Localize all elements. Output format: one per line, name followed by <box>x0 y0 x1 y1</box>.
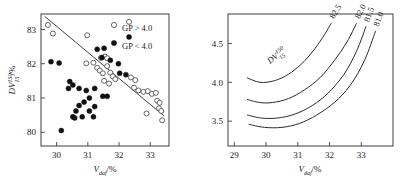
curve-plot-svg: 2930313233 3.54.04.5 82.582.081.581.0 DV… <box>208 0 416 192</box>
data-point <box>102 46 107 51</box>
data-point <box>92 86 97 91</box>
data-point <box>99 55 104 60</box>
x-tick-label: 32 <box>325 150 334 160</box>
data-point <box>59 128 64 133</box>
scatter-panel: 30313233 80818283 GP > 4.0 GP < 4.0 Vdaf… <box>0 0 208 192</box>
x-tick-label: 30 <box>52 150 62 160</box>
x-tick-label: 30 <box>262 150 272 160</box>
data-point <box>70 82 75 87</box>
data-point <box>45 22 50 27</box>
y-axis-unit: /% <box>7 65 17 76</box>
data-point <box>82 100 87 105</box>
legend-label-gp-high: GP > 4.0 <box>122 23 152 33</box>
figure-root: 30313233 80818283 GP > 4.0 GP < 4.0 Vdaf… <box>0 0 416 192</box>
x-axis-title: Vdaf/% <box>93 164 117 176</box>
x-tick-label: 33 <box>357 150 367 160</box>
x-tick-label: 32 <box>115 150 124 160</box>
y-axis-ticks: 80818283 <box>27 25 45 138</box>
data-point <box>91 60 96 65</box>
data-point <box>144 111 149 116</box>
data-point <box>87 96 92 101</box>
data-point <box>153 90 158 95</box>
data-point <box>77 103 82 108</box>
data-point <box>157 100 162 105</box>
data-point <box>105 64 110 69</box>
data-curve <box>247 23 331 82</box>
data-points-gp-high <box>45 19 164 122</box>
data-point <box>123 72 128 77</box>
y-axis-subscript: 15 <box>14 77 20 83</box>
x-axis-ticks: 2930313233 <box>230 142 366 160</box>
y-axis-ticks: 3.54.04.5 <box>212 39 232 127</box>
y-tick-label: 4.5 <box>212 39 224 49</box>
legend-marker-filled-circle <box>111 40 116 45</box>
x-tick-label: 33 <box>146 150 156 160</box>
data-curve <box>249 31 376 128</box>
data-point <box>92 104 97 109</box>
data-point <box>136 88 141 93</box>
x-axis-unit: /% <box>107 164 118 174</box>
y-tick-label: 4.0 <box>212 78 224 88</box>
curve-label: 82.5 <box>327 2 343 20</box>
data-point <box>91 114 96 119</box>
x-tick-label: 31 <box>83 150 92 160</box>
curve-series-group <box>247 23 376 127</box>
data-point <box>77 86 82 91</box>
x-tick-label: 31 <box>293 150 302 160</box>
legend-label-gp-low: GP < 4.0 <box>122 41 152 51</box>
legend: GP > 4.0 GP < 4.0 <box>111 22 152 51</box>
data-point <box>66 86 71 91</box>
data-points-gp-low <box>48 34 131 133</box>
data-point <box>160 118 165 123</box>
y-tick-label: 82 <box>27 59 36 69</box>
data-point <box>73 109 78 114</box>
data-point <box>48 59 53 64</box>
data-point <box>57 61 62 66</box>
data-point <box>84 61 89 66</box>
curve-annotation-dv: DV15015 <box>264 45 289 68</box>
scatter-plot-svg: 30313233 80818283 GP > 4.0 GP < 4.0 Vdaf… <box>0 0 208 192</box>
x-axis-ticks: 30313233 <box>52 142 155 160</box>
data-point <box>84 88 89 93</box>
legend-marker-open-circle <box>111 22 116 27</box>
data-point <box>95 47 100 52</box>
data-point <box>87 109 92 114</box>
data-point <box>72 115 77 120</box>
y-axis-title: DV15015/% <box>7 65 20 96</box>
data-point <box>80 114 85 119</box>
data-point <box>105 94 110 99</box>
y-tick-label: 81 <box>27 93 36 103</box>
data-point <box>100 71 105 76</box>
y-tick-label: 83 <box>27 25 37 35</box>
data-point <box>102 78 107 83</box>
y-tick-label: 3.5 <box>212 116 224 126</box>
data-point <box>107 81 112 86</box>
x-axis-unit: /% <box>312 164 323 174</box>
data-point <box>117 71 122 76</box>
data-point <box>85 33 90 38</box>
data-point <box>108 58 113 63</box>
data-point <box>159 109 164 114</box>
data-point <box>133 78 138 83</box>
data-point <box>50 31 55 36</box>
data-point <box>116 61 121 66</box>
x-axis-title: Vdaf/% <box>298 164 322 176</box>
x-tick-label: 29 <box>230 150 240 160</box>
data-point <box>113 77 118 82</box>
curve-panel: 2930313233 3.54.04.5 82.582.081.581.0 DV… <box>208 0 416 192</box>
data-point <box>127 34 132 39</box>
y-tick-label: 80 <box>27 127 37 137</box>
